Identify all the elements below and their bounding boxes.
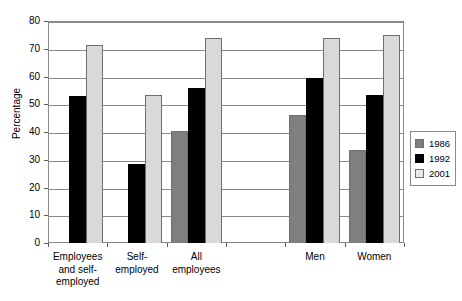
bar-1992	[188, 88, 205, 243]
bar-group	[167, 21, 226, 243]
legend-item: 1986	[415, 136, 450, 151]
x-axis-tick-mark	[345, 243, 346, 247]
bar-group	[285, 21, 344, 243]
bar-1986	[171, 131, 188, 243]
legend-label: 1992	[429, 154, 450, 164]
x-axis-label: Men	[285, 251, 344, 289]
bar-1992	[366, 95, 383, 243]
bar-2001	[86, 45, 103, 243]
bar-groups	[48, 21, 404, 243]
x-axis-tick-mark	[107, 243, 108, 247]
x-axis-labels: Employees and self- employedSelf- employ…	[48, 251, 404, 289]
y-axis-tick-label: 60	[0, 72, 40, 82]
bar-1992	[306, 78, 323, 243]
y-axis-tick-label: 40	[0, 127, 40, 137]
y-axis-tick-label: 50	[0, 99, 40, 109]
bar-1992	[69, 96, 86, 243]
x-axis-tick-mark	[48, 243, 49, 247]
bar-chart: Percentage 80706050403020100 Employees a…	[0, 0, 462, 301]
legend-swatch-icon	[415, 169, 424, 178]
bar-2001	[145, 95, 162, 243]
legend-item: 2001	[415, 166, 450, 181]
bar-2001	[323, 38, 340, 243]
y-axis-tick-label: 70	[0, 44, 40, 54]
bar-1986	[349, 150, 366, 243]
x-axis-label: All employees	[167, 251, 226, 289]
x-axis-tick-mark	[226, 243, 227, 247]
y-axis-tick-label: 10	[0, 210, 40, 220]
bar-2001	[205, 38, 222, 243]
bar-group	[345, 21, 404, 243]
bar-1986	[289, 115, 306, 243]
y-axis-tick-label: 20	[0, 183, 40, 193]
x-axis-label	[226, 251, 285, 289]
legend-label: 2001	[429, 169, 450, 179]
bar-1992	[128, 164, 145, 243]
legend-swatch-icon	[415, 139, 424, 148]
legend-label: 1986	[429, 139, 450, 149]
x-axis-label: Women	[345, 251, 404, 289]
x-axis-tick-mark	[167, 243, 168, 247]
legend: 198619922001	[410, 131, 456, 186]
x-axis-tick-mark	[285, 243, 286, 247]
bar-group	[107, 21, 166, 243]
y-axis-tick-label: 0	[0, 238, 40, 248]
bar-group	[226, 21, 285, 243]
x-axis-tick-mark	[404, 243, 405, 247]
bar-group	[48, 21, 107, 243]
legend-swatch-icon	[415, 154, 424, 163]
bar-2001	[383, 35, 400, 243]
y-axis-tick-label: 80	[0, 16, 40, 26]
legend-item: 1992	[415, 151, 450, 166]
x-axis-label: Employees and self- employed	[48, 251, 107, 289]
x-axis-label: Self- employed	[107, 251, 166, 289]
y-axis-tick-label: 30	[0, 155, 40, 165]
y-axis-title: Percentage	[11, 69, 22, 159]
